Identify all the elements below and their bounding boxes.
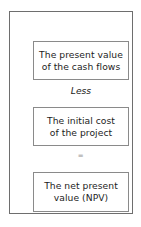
operator-less: Less bbox=[33, 85, 129, 97]
npv-diagram: The present value of the cash flows Less… bbox=[0, 0, 141, 227]
flow-box-net-present-value-label: The net present value (NPV) bbox=[41, 180, 121, 203]
operator-equals: = bbox=[33, 151, 129, 161]
flow-box-initial-cost: The initial cost of the project bbox=[33, 107, 129, 146]
npv-flow-column: The present value of the cash flows Less… bbox=[33, 41, 129, 213]
flow-box-present-value-label: The present value of the cash flows bbox=[36, 49, 126, 72]
diagram-outer-frame: The present value of the cash flows Less… bbox=[9, 11, 133, 214]
flow-box-initial-cost-label: The initial cost of the project bbox=[44, 115, 118, 138]
flow-box-present-value: The present value of the cash flows bbox=[33, 41, 129, 80]
flow-box-net-present-value: The net present value (NPV) bbox=[33, 172, 129, 212]
